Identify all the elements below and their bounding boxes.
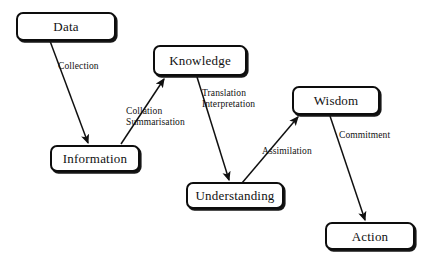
node-label-information: Information — [63, 152, 127, 165]
edge-label-assimilation: Assimilation — [262, 146, 312, 157]
node-data[interactable]: Data — [16, 12, 116, 41]
diagram-canvas: DataKnowledgeInformationWisdomUnderstand… — [0, 0, 429, 261]
node-understanding[interactable]: Understanding — [186, 182, 284, 209]
node-label-action: Action — [352, 230, 389, 243]
edge-label-commitment: Commitment — [339, 130, 390, 141]
node-label-understanding: Understanding — [195, 189, 274, 202]
edge-arrow-collection — [50, 41, 88, 143]
node-action[interactable]: Action — [325, 222, 415, 250]
node-label-knowledge: Knowledge — [169, 54, 231, 67]
node-wisdom[interactable]: Wisdom — [292, 86, 380, 115]
edge-label-translation: Translation Interpretation — [202, 88, 255, 110]
node-information[interactable]: Information — [50, 145, 140, 172]
edge-label-collation: Collation Summarisation — [126, 106, 185, 128]
node-knowledge[interactable]: Knowledge — [153, 45, 247, 76]
edge-label-collection: Collection — [58, 61, 99, 72]
node-label-wisdom: Wisdom — [314, 94, 359, 107]
node-label-data: Data — [53, 20, 78, 33]
